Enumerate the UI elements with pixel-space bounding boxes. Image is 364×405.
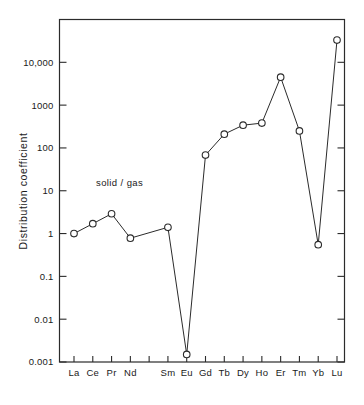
data-point-Lu <box>334 37 341 44</box>
x-tick-label-Gd: Gd <box>199 367 212 378</box>
x-tick-label-Tm: Tm <box>292 367 306 378</box>
y-tick-label: 0.01 <box>34 314 53 325</box>
x-axis-tick-labels: LaCePrNdSmEuGdTbDyHoErTmYbLu <box>69 367 343 378</box>
data-point-Ho <box>259 120 266 127</box>
y-tick-label: 1 <box>48 228 53 239</box>
data-point-Yb <box>315 241 322 248</box>
data-point-Tb <box>221 131 228 138</box>
x-tick-label-Pr: Pr <box>107 367 117 378</box>
x-tick-label-Ho: Ho <box>256 367 269 378</box>
solid-gas-annotation: solid / gas <box>96 177 143 188</box>
y-tick-label: 100 <box>37 142 53 153</box>
y-tick-label: 0.1 <box>40 271 54 282</box>
x-tick-label-Sm: Sm <box>161 367 176 378</box>
series-line-solid-gas <box>74 40 337 354</box>
data-point-Er <box>277 74 284 81</box>
series-markers-solid-gas <box>71 37 341 358</box>
x-tick-label-La: La <box>69 367 80 378</box>
data-point-Tm <box>296 128 303 135</box>
data-point-Eu <box>183 351 190 358</box>
y-axis-title: Distribution coefficient <box>17 133 29 250</box>
x-tick-label-Tb: Tb <box>219 367 231 378</box>
data-point-Gd <box>202 152 209 159</box>
y-tick-label: 0.001 <box>29 356 54 367</box>
x-tick-label-Dy: Dy <box>237 367 249 378</box>
x-tick-label-Eu: Eu <box>181 367 193 378</box>
x-tick-label-Lu: Lu <box>332 367 343 378</box>
y-axis-ticks <box>60 62 67 362</box>
x-tick-label-Nd: Nd <box>124 367 137 378</box>
x-axis-ticks <box>74 356 337 362</box>
x-tick-label-Ce: Ce <box>87 367 100 378</box>
y-tick-label: 10,000 <box>23 57 53 68</box>
data-point-Pr <box>108 210 115 217</box>
rare-earth-distribution-coefficient-chart: 10,00010001001010.10.010.001 LaCePrNdSmE… <box>0 0 364 405</box>
data-point-Ce <box>89 220 96 227</box>
data-point-La <box>71 230 78 237</box>
chart-figure: 10,00010001001010.10.010.001 LaCePrNdSmE… <box>0 0 364 405</box>
y-tick-label: 1000 <box>32 100 54 111</box>
y-tick-label: 10 <box>43 185 54 196</box>
y-axis-ticks-right <box>338 62 345 362</box>
x-tick-label-Yb: Yb <box>312 367 324 378</box>
x-tick-label-Er: Er <box>276 367 286 378</box>
data-point-Sm <box>165 224 172 231</box>
data-point-Nd <box>127 235 134 242</box>
data-point-Dy <box>240 122 247 129</box>
